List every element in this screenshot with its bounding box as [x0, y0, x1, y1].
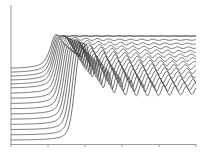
- spectrum-trace: [11, 43, 196, 135]
- waterfall-spectra-chart: [0, 0, 204, 156]
- spectrum-trace: [11, 38, 196, 93]
- plot-area: [0, 0, 204, 156]
- spectra-traces: [11, 34, 196, 139]
